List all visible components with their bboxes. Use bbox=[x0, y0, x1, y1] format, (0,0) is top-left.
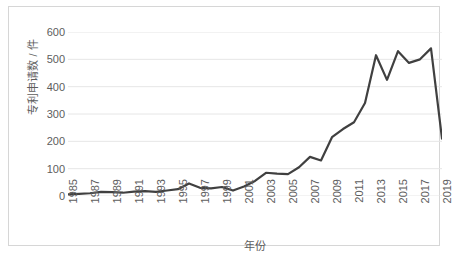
y-axis-tick-label: 500 bbox=[31, 54, 65, 65]
x-axis-tick-label: 1995 bbox=[178, 177, 189, 217]
line-chart-svg bbox=[68, 32, 442, 196]
y-axis-tick-label: 600 bbox=[31, 27, 65, 38]
y-axis-ticks: 6005004003002001000 bbox=[27, 32, 65, 196]
x-axis-tick-label: 1989 bbox=[112, 177, 123, 217]
plot-area bbox=[68, 32, 442, 196]
x-axis-tick-label: 2009 bbox=[332, 177, 343, 217]
x-axis-title: 年份 bbox=[68, 237, 442, 253]
x-axis-tick-label: 2017 bbox=[420, 177, 431, 217]
y-axis-tick-label: 100 bbox=[31, 163, 65, 174]
x-axis-tick-label: 1997 bbox=[200, 177, 211, 217]
x-axis-ticks: 1985198719891991199319951997199920012003… bbox=[68, 197, 442, 241]
x-axis-tick-label: 2005 bbox=[288, 177, 299, 217]
y-axis-tick-label: 300 bbox=[31, 109, 65, 120]
data-series-line bbox=[68, 48, 442, 194]
x-axis-tick-label: 1991 bbox=[134, 177, 145, 217]
gridlines bbox=[68, 32, 442, 196]
x-axis-tick-label: 2019 bbox=[442, 177, 453, 217]
y-axis-tick-label: 200 bbox=[31, 136, 65, 147]
y-axis-tick-label: 0 bbox=[31, 191, 65, 202]
x-axis-tick-label: 2015 bbox=[398, 177, 409, 217]
x-axis-tick-label: 2011 bbox=[354, 177, 365, 217]
x-axis-tick-label: 1987 bbox=[90, 177, 101, 217]
y-axis-tick-label: 400 bbox=[31, 81, 65, 92]
x-axis-tick-label: 1993 bbox=[156, 177, 167, 217]
x-axis-tick-label: 2001 bbox=[244, 177, 255, 217]
x-axis-tick-label: 1985 bbox=[68, 177, 79, 217]
x-axis-tick-label: 2013 bbox=[376, 177, 387, 217]
x-axis-tick-label: 2003 bbox=[266, 177, 277, 217]
x-axis-tick-label: 2007 bbox=[310, 177, 321, 217]
chart-frame: 专利申请数 / 件 6005004003002001000 1985198719… bbox=[8, 6, 440, 246]
x-axis-tick-label: 1999 bbox=[222, 177, 233, 217]
